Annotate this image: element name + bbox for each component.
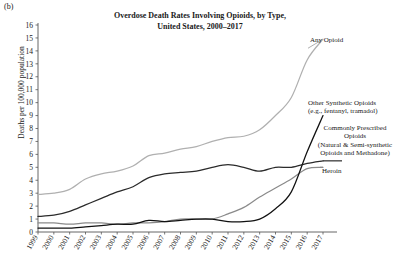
series-line xyxy=(38,161,323,217)
annotation-prescribed-line-1: Commonly Prescribed xyxy=(306,124,404,132)
svg-text:1999: 1999 xyxy=(24,233,39,251)
svg-text:2014: 2014 xyxy=(262,233,277,251)
svg-text:2006: 2006 xyxy=(135,233,150,251)
x-axis: 1999200020012002200320042005200620072008… xyxy=(24,232,337,251)
svg-text:5: 5 xyxy=(29,163,33,172)
svg-text:2010: 2010 xyxy=(199,233,214,251)
svg-text:16: 16 xyxy=(26,21,34,30)
svg-text:6: 6 xyxy=(29,150,33,159)
annotation-prescribed-line-2: Opioids xyxy=(306,132,404,140)
svg-text:2002: 2002 xyxy=(72,233,87,251)
svg-text:2009: 2009 xyxy=(183,233,198,251)
series-line xyxy=(38,39,323,194)
y-axis: 012345678910111213141516 xyxy=(26,21,39,237)
annotation-other-synthetic-opioids: Other Synthetic Opioids (e.g., fentanyl,… xyxy=(308,99,404,116)
svg-text:2000: 2000 xyxy=(40,233,55,251)
svg-text:10: 10 xyxy=(26,98,34,107)
svg-text:9: 9 xyxy=(29,111,33,120)
svg-text:2008: 2008 xyxy=(167,233,182,251)
annotation-any-opioid: Any Opioid xyxy=(310,36,343,44)
svg-text:14: 14 xyxy=(26,47,34,56)
annotation-commonly-prescribed-opioids: Commonly Prescribed Opioids (Natural & S… xyxy=(306,124,404,158)
svg-text:2012: 2012 xyxy=(230,233,245,251)
svg-text:2016: 2016 xyxy=(294,233,309,251)
svg-text:2003: 2003 xyxy=(88,233,103,251)
svg-text:2013: 2013 xyxy=(246,233,261,251)
svg-text:2: 2 xyxy=(29,202,33,211)
svg-text:2011: 2011 xyxy=(215,233,230,250)
series-line xyxy=(38,167,323,224)
svg-text:13: 13 xyxy=(26,60,34,69)
y-axis-ticks: 012345678910111213141516 xyxy=(26,21,39,237)
svg-text:1: 1 xyxy=(29,215,33,224)
svg-text:3: 3 xyxy=(29,189,33,198)
data-series-group xyxy=(38,39,323,228)
svg-text:7: 7 xyxy=(29,137,33,146)
svg-text:2005: 2005 xyxy=(119,233,134,251)
svg-text:2004: 2004 xyxy=(104,233,119,251)
svg-text:15: 15 xyxy=(26,34,34,43)
svg-text:2007: 2007 xyxy=(151,233,166,251)
x-axis-ticks: 1999200020012002200320042005200620072008… xyxy=(24,232,324,251)
svg-text:11: 11 xyxy=(26,85,33,94)
svg-text:4: 4 xyxy=(29,176,33,185)
annotation-heroin: Heroin xyxy=(322,167,341,175)
annotation-other-synthetic-line-2: (e.g., fentanyl, tramadol) xyxy=(308,107,404,115)
svg-text:2001: 2001 xyxy=(56,233,71,251)
svg-text:12: 12 xyxy=(26,72,34,81)
annotation-other-synthetic-line-1: Other Synthetic Opioids xyxy=(308,99,404,107)
annotation-prescribed-line-4: Opioids and Methadone) xyxy=(306,149,404,157)
svg-text:8: 8 xyxy=(29,124,33,133)
annotation-prescribed-line-3: (Natural & Semi-synthetic xyxy=(306,141,404,149)
chart-figure: (b) Overdose Death Rates Involving Opioi… xyxy=(0,0,405,264)
svg-text:2015: 2015 xyxy=(278,233,293,251)
svg-text:2017: 2017 xyxy=(309,233,324,251)
